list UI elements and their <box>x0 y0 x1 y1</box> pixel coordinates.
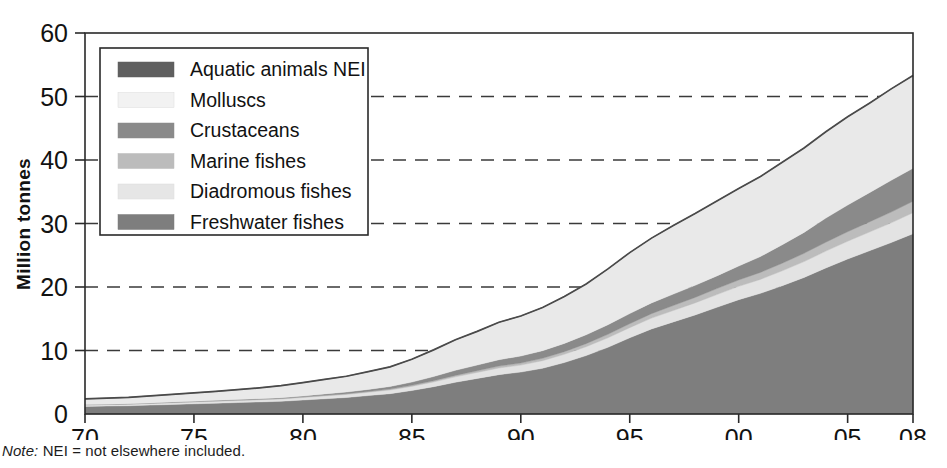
x-tick-label-00: 00 <box>725 424 753 440</box>
legend-swatch-marine-fishes <box>118 154 174 169</box>
x-tick-label-90: 90 <box>507 424 535 440</box>
legend-swatch-crustaceans <box>118 123 174 138</box>
y-tick-label-0: 0 <box>54 400 68 428</box>
chart-figure: 0102030405060 707580859095000508 Million… <box>0 0 947 468</box>
legend-label-molluscs: Molluscs <box>190 89 266 111</box>
y-tick-label-10: 10 <box>40 337 68 365</box>
legend-label-freshwater-fishes: Freshwater fishes <box>190 211 344 233</box>
y-tick-label-50: 50 <box>40 83 68 111</box>
figure-note: Note: NEI = not elsewhere included. <box>2 442 245 459</box>
x-tick-label-95: 95 <box>616 424 644 440</box>
legend-label-marine-fishes: Marine fishes <box>190 150 306 172</box>
legend-swatch-freshwater-fishes <box>118 215 174 230</box>
note-label: Note: <box>2 442 38 459</box>
x-tick-label-05: 05 <box>834 424 862 440</box>
legend-label-crustaceans: Crustaceans <box>190 119 300 141</box>
x-tick-label-75: 75 <box>180 424 208 440</box>
y-tick-label-40: 40 <box>40 146 68 174</box>
stacked-area-chart: 0102030405060 707580859095000508 Million… <box>0 0 947 440</box>
legend-label-diadromous-fishes: Diadromous fishes <box>190 180 352 202</box>
x-tick-label-08: 08 <box>899 424 927 440</box>
y-axis-ticks: 0102030405060 <box>40 19 85 428</box>
legend-label-aquatic-animals-nei: Aquatic animals NEI <box>190 58 366 80</box>
legend-swatch-aquatic-animals-nei <box>118 62 174 77</box>
legend-swatch-diadromous-fishes <box>118 184 174 199</box>
note-text: NEI = not elsewhere included. <box>38 442 245 459</box>
y-axis-title: Million tonnes <box>13 158 34 290</box>
x-tick-label-70: 70 <box>71 424 99 440</box>
x-tick-label-80: 80 <box>289 424 317 440</box>
x-tick-label-85: 85 <box>398 424 426 440</box>
chart-legend: Aquatic animals NEIMolluscsCrustaceansMa… <box>100 48 368 235</box>
x-axis-ticks: 707580859095000508 <box>71 414 927 440</box>
y-tick-label-20: 20 <box>40 273 68 301</box>
y-tick-label-60: 60 <box>40 19 68 47</box>
y-tick-label-30: 30 <box>40 210 68 238</box>
legend-swatch-molluscs <box>118 93 174 108</box>
